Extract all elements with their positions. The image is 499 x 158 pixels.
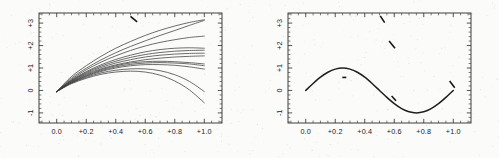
dash-mark: [392, 96, 396, 101]
plot-frame: [39, 13, 222, 123]
y-tick-label: 0: [275, 88, 284, 92]
dash-mark: [389, 41, 395, 48]
annotation-marks: [342, 16, 454, 101]
plot-frame: [288, 13, 471, 123]
left-plot-svg: 0.0+0.2+0.4+0.6+0.8+1.0-10+1+2+3: [0, 0, 250, 158]
data-curve: [57, 36, 205, 91]
x-tick-label: +0.4: [108, 127, 123, 136]
x-tick-label: +0.2: [79, 127, 94, 136]
data-curves: [306, 68, 454, 113]
y-tick-label: +2: [275, 41, 284, 49]
x-tick-label: 0.0: [300, 127, 311, 136]
axis-tick-labels: 0.0+0.2+0.4+0.6+0.8+1.0-10+1+2+3: [26, 19, 212, 136]
x-tick-label: +0.6: [138, 127, 153, 136]
y-tick-label: +1: [26, 64, 35, 72]
x-tick-label: +1.0: [446, 127, 461, 136]
dash-mark: [450, 81, 455, 88]
y-tick-label: +3: [275, 19, 284, 27]
y-tick-label: +3: [26, 19, 35, 27]
annotation-marks: [131, 16, 138, 22]
figure-container: 0.0+0.2+0.4+0.6+0.8+1.0-10+1+2+3 0.0+0.2…: [0, 0, 499, 158]
data-curve: [57, 69, 205, 92]
axis-ticks: [39, 13, 222, 123]
x-tick-label: +0.2: [328, 127, 343, 136]
x-tick-label: +0.4: [357, 127, 372, 136]
y-tick-label: 0: [26, 88, 35, 92]
data-curve: [306, 68, 454, 113]
data-curve: [57, 53, 205, 91]
axis-tick-labels: 0.0+0.2+0.4+0.6+0.8+1.0-10+1+2+3: [275, 19, 461, 136]
right-plot-svg: 0.0+0.2+0.4+0.6+0.8+1.0-10+1+2+3: [249, 0, 499, 158]
paper-speckle: [249, 0, 499, 157]
data-curve: [57, 56, 205, 92]
x-tick-label: 0.0: [51, 127, 62, 136]
data-curves: [57, 20, 205, 103]
dash-mark: [131, 16, 138, 22]
dash-mark: [380, 16, 384, 23]
y-tick-label: -1: [26, 110, 35, 116]
plot-panel-right: 0.0+0.2+0.4+0.6+0.8+1.0-10+1+2+3: [249, 0, 499, 158]
y-tick-label: +1: [275, 64, 284, 72]
axis-ticks: [288, 13, 471, 123]
plot-panel-left: 0.0+0.2+0.4+0.6+0.8+1.0-10+1+2+3: [0, 0, 250, 158]
x-tick-label: +0.8: [167, 127, 182, 136]
x-tick-label: +0.6: [387, 127, 402, 136]
x-tick-label: +0.8: [416, 127, 431, 136]
paper-speckle: [0, 0, 250, 158]
y-tick-label: -1: [275, 110, 284, 116]
x-tick-label: +1.0: [197, 127, 212, 136]
y-tick-label: +2: [26, 41, 35, 49]
